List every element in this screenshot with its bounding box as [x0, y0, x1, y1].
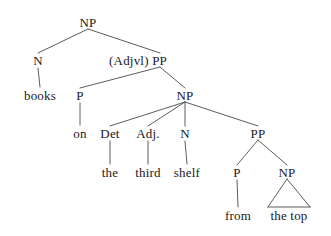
tree-node-det-1: Det	[100, 127, 119, 140]
tree-node-np-3: NP	[278, 166, 295, 179]
tree-node-third: third	[135, 166, 161, 179]
tree-node-pp-2: PP	[251, 127, 266, 140]
tree-node-shelf: shelf	[174, 166, 200, 179]
tree-node-n-2: N	[180, 127, 190, 140]
tree-edge-p-2-from	[237, 180, 238, 207]
tree-edges-layer	[0, 0, 331, 236]
tree-node-books: books	[24, 89, 56, 102]
tree-node-pp-1: (Adjvl) PP	[109, 54, 167, 67]
tree-node-from: from	[225, 209, 251, 222]
tree-edge-np-2-adj-1	[148, 102, 185, 126]
tree-node-np-2: NP	[176, 89, 193, 102]
tree-node-on: on	[73, 127, 86, 140]
tree-edge-np-3-the-top-left	[268, 179, 287, 207]
tree-node-p-1: P	[76, 89, 83, 102]
tree-edge-np-root-pp-1	[88, 29, 160, 53]
tree-node-n-1: N	[33, 54, 43, 67]
tree-edge-np-3-the-top-right	[287, 179, 310, 207]
tree-edge-np-2-det-1	[110, 102, 185, 126]
tree-edge-np-root-n-1	[38, 29, 88, 53]
tree-node-the: the	[102, 166, 118, 179]
tree-edge-np-2-pp-2	[185, 102, 258, 126]
syntax-tree-diagram: NPN(Adjvl) PPbooksPNPonDetAdj.NPPthethir…	[0, 0, 331, 236]
tree-edge-pp-1-np-2	[160, 67, 185, 88]
tree-edge-pp-1-p-1	[80, 67, 160, 88]
tree-edge-n-1-books	[38, 68, 40, 87]
tree-node-p-2: P	[233, 166, 240, 179]
tree-edge-pp-2-np-3	[258, 140, 287, 165]
tree-node-np-root: NP	[79, 16, 96, 29]
tree-edge-pp-2-p-2	[237, 140, 258, 165]
tree-edge-n-2-shelf	[185, 141, 187, 164]
tree-node-adj-1: Adj.	[136, 127, 160, 140]
tree-node-the-top: the top	[270, 209, 307, 222]
